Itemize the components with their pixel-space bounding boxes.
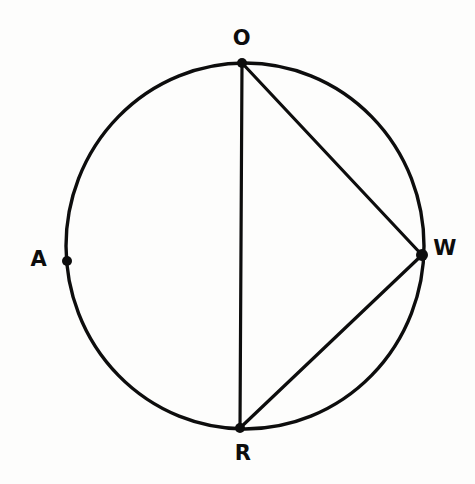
vertex-dot-o — [237, 58, 247, 68]
figure-canvas — [0, 0, 475, 484]
chord-w-r — [240, 255, 422, 428]
vertex-label-w: W — [433, 238, 457, 259]
chord-o-r — [240, 63, 242, 428]
vertex-label-o: O — [233, 28, 251, 49]
circle-geometry-diagram: O A W R — [0, 0, 475, 484]
main-circle — [66, 63, 424, 429]
vertex-label-a: A — [31, 249, 48, 270]
vertex-label-r: R — [235, 443, 252, 464]
vertex-dot-a — [62, 256, 72, 266]
vertex-dot-w — [416, 249, 428, 261]
chord-o-w — [242, 63, 422, 255]
vertex-dot-r — [235, 423, 245, 433]
